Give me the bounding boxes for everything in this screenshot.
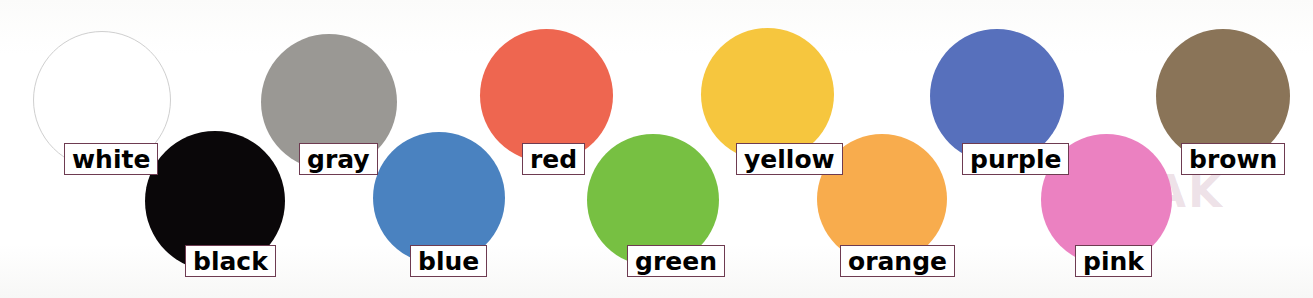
circle-yellow[interactable] — [701, 28, 834, 161]
color-label-orange[interactable]: orange — [840, 245, 955, 277]
color-label-red[interactable]: red — [522, 143, 585, 175]
color-label-blue[interactable]: blue — [410, 245, 487, 277]
color-label-gray[interactable]: gray — [299, 143, 378, 175]
color-label-purple[interactable]: purple — [962, 143, 1069, 175]
color-label-yellow[interactable]: yellow — [736, 143, 843, 175]
color-swatch-yellow[interactable] — [701, 28, 834, 161]
color-label-white[interactable]: white — [64, 143, 158, 175]
color-label-black[interactable]: black — [185, 245, 276, 277]
color-label-brown[interactable]: brown — [1181, 143, 1285, 175]
color-label-pink[interactable]: pink — [1075, 245, 1152, 277]
color-label-green[interactable]: green — [627, 245, 725, 277]
color-chart-poster: SPEAK whiteblackgrayblueredgreenyellowor… — [0, 0, 1313, 298]
